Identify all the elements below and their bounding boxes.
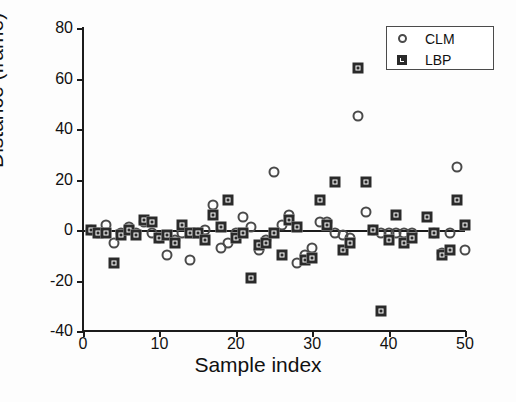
data-point-lbp [246,272,257,283]
data-point-lbp [108,257,119,268]
data-point-lbp [276,250,287,261]
circle-icon [398,34,407,43]
legend-marker-lbp [387,49,417,70]
data-point-clm [238,212,249,223]
data-point-lbp [345,237,356,248]
x-axis-tick-label: 10 [150,335,168,353]
x-axis-tick-label: 40 [380,335,398,353]
data-point-lbp [238,227,249,238]
y-axis-tick-label: 0 [64,221,73,239]
square-icon [397,55,407,65]
y-axis-tick-label: 60 [55,70,73,88]
x-axis-title: Sample index [0,353,516,377]
y-axis-tick [77,281,83,283]
data-point-lbp [314,194,325,205]
plot-area: -40-20020406080 01020304050 [83,28,465,331]
data-point-lbp [444,245,455,256]
data-point-clm [353,111,364,122]
data-point-lbp [100,227,111,238]
data-point-lbp [330,177,341,188]
data-point-lbp [375,305,386,316]
legend: CLMLBP [386,26,494,70]
data-point-lbp [368,225,379,236]
legend-label: LBP [425,52,451,68]
data-point-lbp [291,222,302,233]
data-point-lbp [200,235,211,246]
legend-item-clm[interactable]: CLM [387,28,493,49]
y-axis-tick [77,129,83,131]
chart-figure: Distance (frame) Sample index -40-200204… [0,0,516,402]
data-point-lbp [322,219,333,230]
data-point-lbp [353,63,364,74]
data-point-clm [444,227,455,238]
y-axis-tick [77,180,83,182]
data-point-lbp [452,194,463,205]
data-point-lbp [207,209,218,220]
data-point-lbp [269,227,280,238]
x-axis-tick-label: 0 [79,335,88,353]
data-point-lbp [421,212,432,223]
data-point-lbp [261,237,272,248]
data-point-clm [360,207,371,218]
y-axis-tick-label: 80 [55,19,73,37]
data-point-lbp [146,217,157,228]
y-axis-tick-label: 40 [55,120,73,138]
data-point-lbp [169,237,180,248]
y-axis-title: Distance (frame) [0,13,8,168]
data-point-lbp [131,230,142,241]
data-point-lbp [460,219,471,230]
data-point-lbp [215,222,226,233]
y-axis-tick-label: -40 [50,322,73,340]
data-point-clm [162,250,173,261]
data-point-lbp [391,209,402,220]
data-point-lbp [307,252,318,263]
data-point-lbp [383,235,394,246]
data-point-lbp [429,227,440,238]
legend-label: CLM [425,31,455,47]
x-axis-tick-label: 20 [227,335,245,353]
legend-marker-clm [387,28,417,49]
data-point-clm [184,255,195,266]
y-axis-tick [77,28,83,30]
data-point-clm [269,166,280,177]
legend-item-lbp[interactable]: LBP [387,49,493,70]
data-point-lbp [223,194,234,205]
x-axis-tick-label: 50 [456,335,474,353]
data-point-clm [460,245,471,256]
data-point-lbp [406,232,417,243]
y-axis-tick [77,79,83,81]
data-point-clm [452,161,463,172]
x-axis-tick-label: 30 [303,335,321,353]
y-axis-tick [77,230,83,232]
data-point-lbp [360,177,371,188]
y-axis-tick-label: -20 [50,272,73,290]
y-axis-tick-label: 20 [55,171,73,189]
